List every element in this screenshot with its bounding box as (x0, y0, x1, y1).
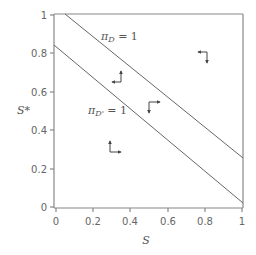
x-tick-0.6: 0.6 (160, 216, 176, 227)
x-axis-label: S (142, 234, 150, 247)
x-tick-1: 1 (239, 216, 245, 227)
line-pi-d (65, 14, 243, 158)
label-pi-d-prime: πD' = 1 (87, 104, 127, 118)
y-tick-0.2: 0.2 (31, 164, 47, 175)
chart: 0 0.2 0.4 0.6 0.8 1 S 0 0.2 0.4 0.6 0.8 … (0, 0, 256, 255)
x-tick-0.2: 0.2 (85, 216, 101, 227)
y-tick-0.8: 0.8 (31, 48, 47, 59)
x-axis: 0 0.2 0.4 0.6 0.8 1 S (53, 208, 245, 247)
line-pi-d-prime (54, 45, 243, 203)
y-axis: 0 0.2 0.4 0.6 0.8 1 S* (17, 10, 54, 213)
label-pi-d: πD = 1 (100, 30, 138, 44)
arrows-right-up (110, 141, 121, 152)
x-tick-0: 0 (53, 216, 59, 227)
y-tick-0.6: 0.6 (31, 87, 47, 98)
y-axis-label: S* (17, 104, 31, 117)
y-tick-0: 0 (41, 202, 47, 213)
y-tick-0.4: 0.4 (31, 125, 47, 136)
arrows-right-down (149, 102, 160, 113)
arrows-left-up (112, 71, 121, 82)
y-tick-1: 1 (41, 10, 47, 21)
x-tick-0.8: 0.8 (197, 216, 213, 227)
x-tick-0.4: 0.4 (122, 216, 138, 227)
arrows-left-down (198, 52, 207, 63)
